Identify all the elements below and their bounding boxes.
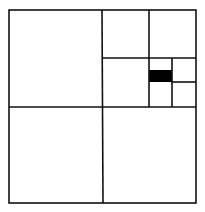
quadtree-diagram [0,0,205,212]
filled-cells [149,70,172,82]
highlighted-cell [149,70,172,82]
